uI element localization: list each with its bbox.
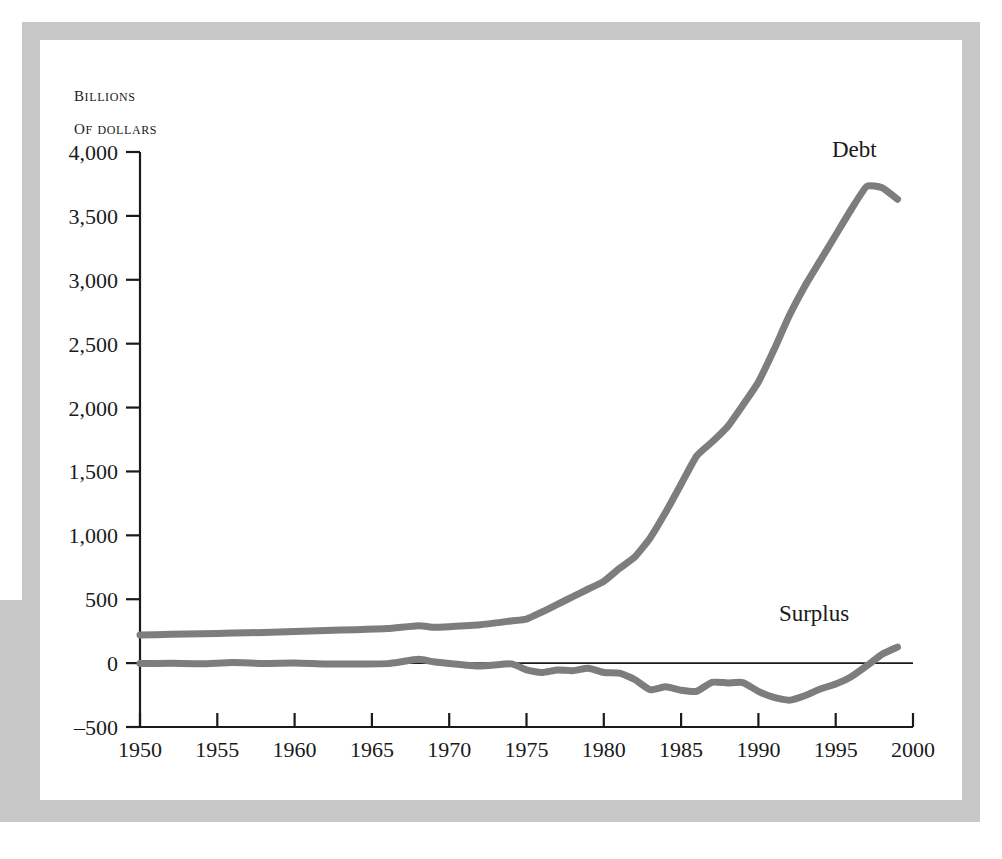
y-tick-label: 1,500 (69, 459, 119, 484)
series-line-surplus (140, 647, 898, 700)
y-tick-label: 4,000 (69, 140, 119, 165)
y-tick-label: 2,000 (69, 396, 119, 421)
x-tick-label: 1955 (195, 737, 239, 762)
y-tick-label: 500 (85, 587, 118, 612)
y-axis: –50005001,0001,5002,0002,5003,0003,5004,… (69, 140, 141, 740)
x-tick-label: 1965 (350, 737, 394, 762)
y-tick-label: 1,000 (69, 523, 119, 548)
x-tick-label: 1985 (659, 737, 703, 762)
y-tick-label: 0 (107, 651, 118, 676)
x-tick-label: 1990 (736, 737, 780, 762)
chart-svg: –50005001,0001,5002,0002,5003,0003,5004,… (0, 0, 1002, 859)
figure-root: Billions of dollars –50005001,0001,5002,… (0, 0, 1002, 859)
y-tick-label: 3,000 (69, 268, 119, 293)
y-tick-label: 2,500 (69, 332, 119, 357)
x-tick-label: 1950 (118, 737, 162, 762)
x-tick-label: 1970 (427, 737, 471, 762)
x-tick-label: 1960 (273, 737, 317, 762)
x-tick-label: 1975 (505, 737, 549, 762)
x-tick-label: 1995 (814, 737, 858, 762)
y-tick-label: –500 (73, 715, 118, 740)
series-annotation: Debt (832, 137, 877, 162)
line-chart: –50005001,0001,5002,0002,5003,0003,5004,… (0, 0, 1002, 859)
x-tick-label: 2000 (891, 737, 935, 762)
series-annotations: DebtSurplus (779, 137, 877, 626)
x-tick-label: 1980 (582, 737, 626, 762)
series-line-debt (140, 186, 898, 635)
series-annotation: Surplus (779, 601, 849, 626)
y-tick-label: 3,500 (69, 204, 119, 229)
x-axis: 1950195519601965197019751980198519901995… (118, 713, 935, 762)
